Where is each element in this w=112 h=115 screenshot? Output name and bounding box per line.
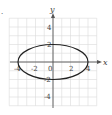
- y-tick-label: 4: [47, 24, 52, 32]
- x-tick-label: 0: [48, 65, 52, 73]
- x-axis-arrow-icon: [97, 60, 102, 64]
- ellipse-graph: x y -4 -2 0 2 4 4 2 -2 -4: [0, 0, 112, 115]
- y-tick-label: -4: [44, 93, 51, 101]
- y-axis-label: y: [49, 5, 55, 14]
- x-tick-label: 2: [69, 65, 73, 73]
- x-tick-label: -2: [31, 65, 38, 73]
- x-axis-label: x: [103, 58, 108, 67]
